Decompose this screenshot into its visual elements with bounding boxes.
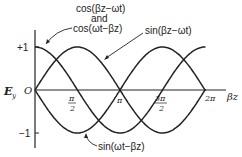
sin-positive-arrow	[106, 33, 143, 58]
tick-2pi: 2π	[204, 94, 216, 103]
tick-pi-half-num: π	[68, 94, 75, 103]
label-plus1: +1	[17, 42, 29, 53]
label-minus1: −1	[19, 128, 31, 139]
sin-negative-label: sin(ωt−βz)	[98, 141, 145, 152]
cos-label-2: cos(ωt−βz)	[73, 23, 122, 34]
sin-negative-arrow	[86, 135, 97, 146]
tick-pi: π	[116, 96, 123, 105]
y-axis-label-sub: y	[11, 92, 17, 100]
sin-negative-arrowhead	[84, 133, 88, 138]
sin-positive-arrowhead	[104, 55, 109, 60]
tick-3pi-half-den: 2	[158, 104, 164, 113]
label-origin: O	[24, 85, 32, 96]
tick-3pi-half-num: 3π	[155, 94, 166, 103]
wave-diagram: +1 −1 O E y π 2 π 3π 2 2π βz cos(βz−ωt) …	[0, 0, 242, 157]
cos-arrow	[46, 28, 72, 44]
tick-pi-half-den: 2	[69, 104, 75, 113]
sin-positive-label: sin(βz−ωt)	[145, 25, 192, 36]
x-axis-label: βz	[226, 91, 239, 102]
